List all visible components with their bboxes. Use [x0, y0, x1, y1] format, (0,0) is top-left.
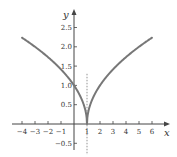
y-tick-label: 0.5	[61, 101, 72, 109]
x-axis-arrow-icon	[164, 122, 170, 127]
x-tick-label: 2	[98, 128, 102, 136]
x-tick-label: 5	[137, 128, 141, 136]
y-tick-label: 1.5	[61, 63, 72, 71]
x-tick-label: 3	[111, 128, 115, 136]
y-axis-label: y	[62, 9, 69, 20]
x-tick-label: −4	[17, 128, 28, 136]
x-tick-label: 6	[150, 128, 155, 136]
chart: xy −4−3−2−1123456−0.50.51.01.52.02.5	[0, 0, 177, 157]
y-tick-label: 1.0	[61, 82, 72, 90]
x-axis-label: x	[164, 127, 170, 138]
y-axis-arrow-icon	[72, 9, 77, 15]
y-tick-label: 2.5	[61, 24, 72, 32]
x-tick-label: 4	[124, 128, 129, 136]
x-tick-label: −1	[56, 128, 66, 136]
ticks: −4−3−2−1123456−0.50.51.01.52.02.5	[17, 24, 155, 148]
x-tick-label: −3	[30, 128, 40, 136]
x-tick-label: −2	[43, 128, 53, 136]
y-tick-label: 2.0	[61, 43, 72, 51]
plot-area	[22, 38, 152, 155]
y-tick-label: −0.5	[55, 140, 72, 148]
